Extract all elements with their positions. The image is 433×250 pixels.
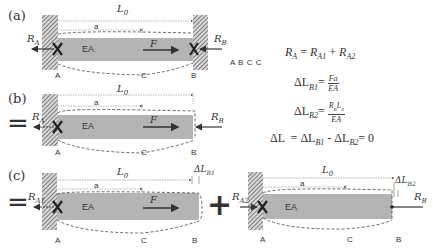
point-label-b: B — [192, 236, 197, 245]
point-label-c: C — [141, 236, 147, 245]
left-wall — [248, 172, 263, 230]
point-label-a: A — [55, 71, 60, 80]
reaction-label-left: RA1 — [28, 191, 45, 205]
reaction-label-right: RB — [211, 111, 224, 125]
ea-label: EA — [82, 202, 94, 212]
plus-sign: + — [207, 190, 232, 220]
force-label: F — [150, 194, 157, 205]
a-label: a — [94, 22, 98, 31]
length-label: L0 — [117, 3, 128, 17]
reaction-label-right: RB — [214, 33, 227, 47]
stray-text: A B C C — [230, 58, 262, 67]
length-label: L0 — [117, 166, 128, 180]
length-label: L0 — [322, 164, 333, 178]
equation-reaction-sum: RA = RA1 + RA2 — [285, 45, 355, 61]
point-label-c: C — [347, 235, 353, 244]
bar — [57, 193, 199, 220]
delta-label: ΔLB1 — [194, 164, 215, 176]
force-label: F — [150, 114, 157, 125]
equals-sign: = — [7, 110, 29, 136]
panel-b — [34, 93, 222, 153]
point-label-a: A — [55, 236, 60, 245]
point-label-c: C — [141, 71, 147, 80]
left-wall — [42, 15, 58, 70]
ea-label: EA — [82, 44, 94, 54]
a-label: a — [94, 181, 98, 190]
ea-label: EA — [285, 202, 297, 212]
point-label-c: C — [141, 148, 147, 157]
equation-delta-b1: ΔLB1= FaEA — [294, 74, 339, 93]
right-wall — [193, 15, 208, 70]
point-label-b: B — [396, 235, 401, 244]
panel-label: (b) — [8, 91, 26, 106]
panel-label: (a) — [8, 8, 26, 23]
point-label-b: B — [191, 148, 196, 157]
a-label: a — [300, 179, 304, 188]
ea-label: EA — [82, 121, 94, 131]
delta-label: ΔLB2 — [395, 175, 416, 187]
reaction-label-left: RA — [32, 111, 45, 125]
bar — [263, 194, 392, 219]
point-label-a: A — [260, 235, 265, 244]
reaction-label-left: RA — [27, 33, 40, 47]
reaction-label-left: RA2 — [232, 191, 249, 205]
equation-delta-b2: ΔLB2= RBL0EA — [294, 101, 345, 124]
a-label: a — [94, 98, 98, 107]
length-label: L0 — [117, 83, 128, 97]
panel-label: (c) — [8, 168, 25, 183]
panel-a — [32, 15, 222, 75]
point-label-a: A — [55, 148, 60, 157]
panel-c-left — [34, 173, 202, 233]
force-label: F — [150, 38, 157, 49]
point-label-b: B — [191, 71, 196, 80]
equation-compatibility: ΔL = ΔLB1 - ΔLB2= 0 — [270, 131, 374, 147]
reaction-label-right: RB — [414, 191, 427, 205]
equals-sign: = — [7, 189, 29, 215]
